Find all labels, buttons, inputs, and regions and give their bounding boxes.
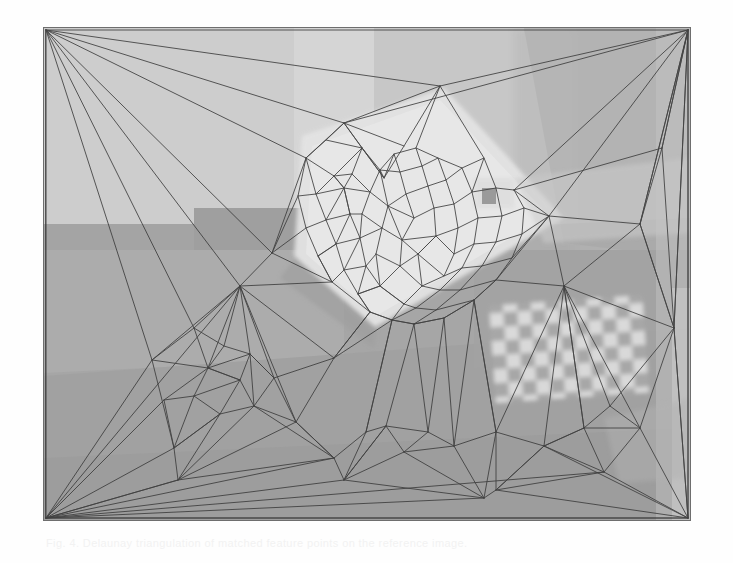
- page-root: Fig. 4. Delaunay triangulation of matche…: [0, 0, 733, 563]
- photo-background: [44, 28, 690, 520]
- mesh-overlay-svg: [44, 28, 690, 520]
- figure-caption: Fig. 4. Delaunay triangulation of matche…: [46, 536, 686, 550]
- figure-image: [43, 27, 691, 521]
